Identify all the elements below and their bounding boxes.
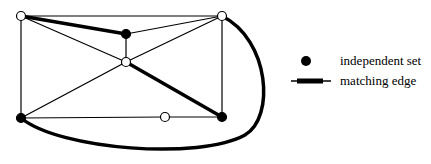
independent-set-node: [218, 113, 227, 122]
matching-edge: [126, 62, 222, 117]
independent-set-node: [122, 30, 131, 39]
graph-node: [218, 12, 227, 21]
edges-group: [21, 16, 222, 118]
legend-independent-set-icon: [301, 56, 311, 66]
edge: [126, 16, 222, 62]
matching-edge: [21, 16, 126, 34]
edge: [21, 117, 165, 118]
graph-node: [122, 58, 131, 67]
independent-set-node: [17, 114, 26, 123]
legend-independent-set-label: independent set: [340, 53, 421, 69]
matching-edge-curved: [21, 16, 264, 149]
edge: [21, 16, 126, 62]
edge: [21, 62, 126, 118]
edge: [126, 16, 222, 34]
legend-matching-edge-label: matching edge: [340, 73, 416, 89]
graph-node: [161, 113, 170, 122]
graph-node: [17, 12, 26, 21]
